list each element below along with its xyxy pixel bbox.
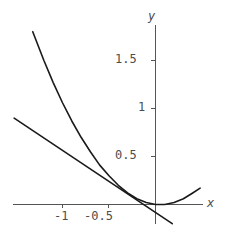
x-tick-label--1: -1 — [54, 210, 68, 222]
x-tick-label--0.5: -0.5 — [84, 210, 113, 222]
y-tick-label-1: 1 — [138, 101, 145, 113]
tangent-line — [14, 118, 172, 224]
y-tick-label-1.5: 1.5 — [115, 53, 137, 65]
x-axis-label: x — [207, 197, 214, 209]
y-axis-label: y — [148, 10, 155, 22]
plot-figure: 1.5 1 0.5 -1 -0.5 y x — [0, 0, 228, 234]
y-tick-label-0.5: 0.5 — [115, 149, 137, 161]
plot-canvas — [0, 0, 228, 234]
